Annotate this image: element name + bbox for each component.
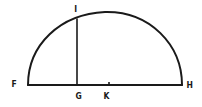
point-label-H: H [187,81,193,90]
diagram-svg [0,0,202,107]
point-label-K: K [104,92,110,101]
semicircle-arc [28,12,182,85]
geometry-diagram: F G K H I [0,0,202,107]
point-label-I: I [74,5,77,14]
point-label-F: F [11,80,16,89]
point-label-G: G [76,92,82,101]
